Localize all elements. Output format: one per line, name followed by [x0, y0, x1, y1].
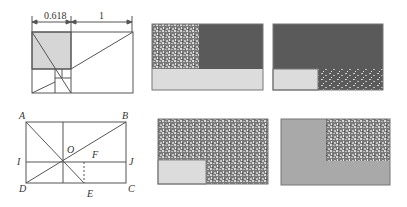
panel-speckled-strip [318, 69, 383, 90]
point-label-c: C [128, 183, 135, 194]
point-label-j: J [129, 156, 134, 167]
panel-bottom-right [281, 119, 390, 185]
dimension-label-long: 1 [99, 10, 104, 21]
labeled-rectangle-diagram [26, 122, 126, 183]
diagonal [71, 32, 133, 69]
panel-light-box [273, 69, 318, 90]
dimension-label-short: 0.618 [44, 10, 67, 21]
panel-top-right [273, 24, 383, 90]
line-db [26, 122, 126, 183]
shaded-square [32, 32, 71, 69]
panel-light-box [158, 160, 206, 184]
point-label-i: I [16, 156, 21, 167]
panel-light-strip [152, 69, 263, 90]
arrowhead [32, 20, 37, 24]
panel-bottom-middle [158, 119, 268, 184]
point-label-o: O [67, 144, 74, 155]
arrowhead [127, 20, 132, 24]
diagonal [32, 82, 55, 93]
panel-top-middle [152, 24, 263, 90]
point-label-b: B [122, 110, 128, 121]
panel-texture-square [152, 24, 199, 69]
golden-rectangle-diagram [32, 16, 133, 93]
point-label-d: D [18, 183, 27, 194]
panel-texture-box [326, 119, 390, 161]
arrowhead [71, 20, 76, 24]
point-label-e: E [86, 188, 93, 199]
figure-canvas: 0.618 1 A B C D E F I J O [0, 0, 407, 207]
point-label-f: F [91, 149, 99, 160]
point-label-a: A [18, 110, 26, 121]
